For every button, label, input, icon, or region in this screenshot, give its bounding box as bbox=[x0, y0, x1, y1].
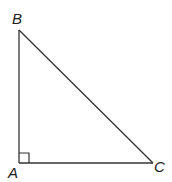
side-bc bbox=[19, 30, 153, 163]
vertex-label-c: C bbox=[154, 158, 165, 175]
triangle-diagram: B A C bbox=[0, 0, 172, 182]
right-angle-marker bbox=[19, 153, 29, 163]
vertex-label-a: A bbox=[7, 164, 18, 181]
vertex-label-b: B bbox=[12, 10, 22, 27]
